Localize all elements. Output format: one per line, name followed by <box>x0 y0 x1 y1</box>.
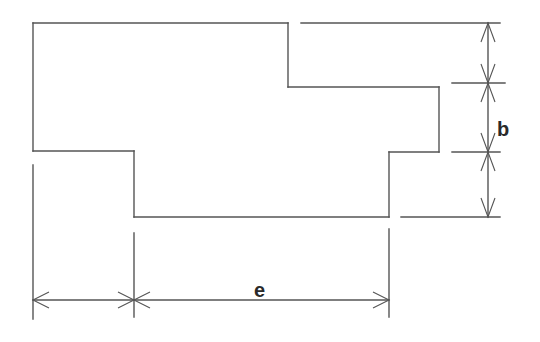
drawing-canvas: b e <box>0 0 540 342</box>
dimension-label-b: b <box>497 118 509 140</box>
horizontal-dimension: e <box>33 279 389 308</box>
dimension-label-e: e <box>254 279 265 301</box>
vertical-dimension: b <box>481 23 509 217</box>
profile-outline <box>33 23 439 217</box>
extension-lines <box>33 23 505 319</box>
